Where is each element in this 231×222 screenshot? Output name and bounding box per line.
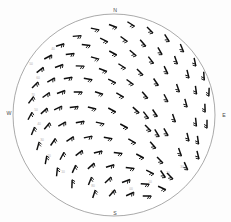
cardinal-label-w: W: [7, 110, 12, 116]
limb-circle: [13, 14, 215, 216]
graticule-label: 50: [29, 62, 33, 66]
wind-barb-stem: [126, 168, 134, 169]
wind-barb-flag: [62, 65, 63, 68]
wind-barb-flag: [174, 63, 177, 64]
wind-barb-flag: [172, 121, 175, 122]
polar-wind-chart: 607050403020108090001020305040 NESW: [0, 0, 231, 222]
graticule-label: 10: [61, 170, 65, 174]
wind-barb-flag: [173, 61, 176, 62]
graticule-label: 50: [34, 108, 38, 112]
wind-barb-stem: [196, 118, 197, 126]
map-canvas: 607050403020108090001020305040 NESW: [0, 0, 231, 222]
wind-barb-flag: [111, 165, 112, 168]
wind-barb-flag: [177, 153, 180, 154]
graticule-label: 30: [180, 165, 184, 169]
wind-barb-flag: [129, 180, 130, 183]
wind-barb-flag: [60, 65, 61, 68]
graticule-label: 30: [40, 138, 44, 142]
wind-barb-stem: [70, 107, 78, 108]
wind-barb-flag: [127, 180, 128, 183]
cardinal-label-n: N: [113, 7, 117, 13]
graticule-label: 40: [51, 47, 55, 51]
graticule-label: 00: [129, 187, 133, 191]
cardinal-label-s: S: [113, 210, 117, 216]
wind-barb-flag: [64, 91, 65, 94]
graticule-label: 80: [91, 184, 95, 188]
wind-barb-stem: [204, 72, 205, 80]
wind-barb-stem: [73, 36, 81, 37]
wind-barb-flag: [176, 91, 179, 92]
wind-barb-stem: [57, 168, 58, 176]
graticule-label: 40: [37, 122, 41, 126]
cardinal-label-e: E: [222, 112, 226, 118]
wind-barb-flag: [178, 155, 181, 156]
wind-barb-flag: [171, 119, 174, 120]
wind-barb-stem: [141, 184, 149, 185]
wind-barb-flag: [175, 89, 178, 90]
graticule-label: 60: [36, 76, 40, 80]
wind-barb-flag: [62, 91, 63, 94]
graticule-label: 10: [148, 180, 152, 184]
